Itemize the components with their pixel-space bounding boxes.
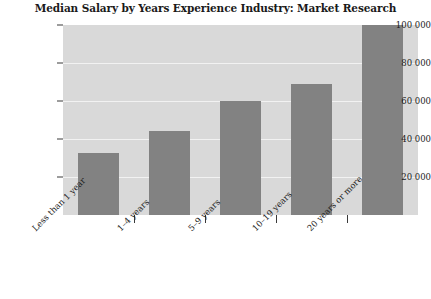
bar-chart: Median Salary by Years Experience Indust… — [0, 0, 431, 299]
x-axis-tick-mark — [347, 215, 348, 223]
y-axis-tick-mark — [57, 101, 63, 102]
y-axis-tick-mark — [57, 139, 63, 140]
bar-1 — [149, 131, 190, 215]
y-axis-tick-label: 60 000 — [375, 96, 431, 106]
bar-2 — [220, 101, 261, 215]
bar-4 — [362, 25, 403, 215]
y-axis-tick-label: 20 000 — [375, 172, 431, 182]
x-axis-tick-mark — [276, 215, 277, 223]
chart-title: Median Salary by Years Experience Indust… — [0, 2, 431, 14]
y-axis-tick-label: 80 000 — [375, 58, 431, 68]
plot-area — [63, 25, 418, 215]
bar-3 — [291, 84, 332, 215]
y-axis-tick-label: 40 000 — [375, 134, 431, 144]
y-axis-tick-label: 100 000 — [375, 20, 431, 30]
y-axis-tick-mark — [57, 63, 63, 64]
y-axis-tick-mark — [57, 25, 63, 26]
y-axis-tick-mark — [57, 177, 63, 178]
